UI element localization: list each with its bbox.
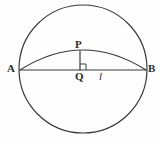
vertex-label-q: Q [75,71,84,82]
main-circle [19,5,147,133]
arc-apb-path [20,50,146,70]
vertex-label-a: A [7,63,15,74]
vertex-label-p: P [75,39,82,50]
length-label-l: l [99,71,102,82]
vertex-label-b: B [148,63,155,74]
geometry-figure: A B P Q l [0,0,163,146]
